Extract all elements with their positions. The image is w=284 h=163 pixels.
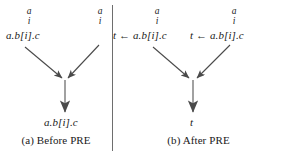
- edge-left-to-merge: [25, 47, 62, 78]
- panel-after-pre: a i t ← a.b[i].c a i t ← a.b[i].c t (b) …: [113, 0, 284, 163]
- merge-successor-label: t: [190, 117, 193, 128]
- left-predecessor-label: t ← a.b[i].c: [113, 30, 167, 41]
- right-predecessor-marker: a i: [223, 7, 245, 26]
- panel-before-pre: a i a.b[i].c a i a.b[i].c (a) Before PRE: [0, 0, 112, 163]
- panel-b-caption: (b) After PRE: [113, 134, 284, 146]
- edge-right-to-merge: [197, 45, 230, 78]
- marker-bottom-letter: i: [223, 17, 245, 27]
- right-predecessor-label: t ← a.b[i].c: [190, 30, 244, 41]
- edge-right-to-merge: [68, 45, 99, 78]
- pre-transformation-figure: a i a.b[i].c a i a.b[i].c (a) Before PRE: [0, 0, 284, 163]
- panel-a-caption: (a) Before PRE: [0, 134, 112, 146]
- merge-successor-label: a.b[i].c: [44, 117, 78, 128]
- edge-left-to-merge: [153, 47, 189, 78]
- left-predecessor-label: a.b[i].c: [6, 30, 40, 41]
- marker-bottom-letter: i: [146, 17, 168, 27]
- left-predecessor-marker: a i: [146, 7, 168, 26]
- right-predecessor-marker: a i: [89, 7, 111, 26]
- left-predecessor-marker: a i: [18, 7, 40, 26]
- marker-bottom-letter: i: [18, 17, 40, 27]
- marker-bottom-letter: i: [89, 17, 111, 27]
